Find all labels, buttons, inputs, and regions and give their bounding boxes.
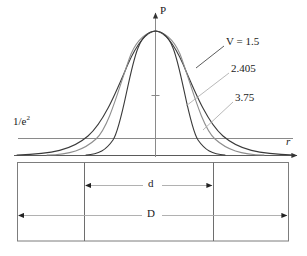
curve-label-v-1-5: V = 1.5	[226, 36, 259, 47]
figure-root: P r 1/e2 V = 1.5 2.405 3.75 d D	[0, 0, 307, 256]
cladding-outline-rect	[18, 163, 289, 242]
core-diameter-label: d	[148, 178, 154, 189]
one-over-e-squared-base: 1/e	[13, 115, 26, 127]
p-axis-label: P	[160, 5, 166, 16]
bottom-panel-fiber-rectangle	[18, 163, 289, 242]
curve-label-2-405: 2.405	[231, 63, 256, 74]
cladding-diameter-label: D	[147, 208, 155, 219]
curve-label-3-75: 3.75	[235, 92, 254, 103]
r-axis-label: r	[286, 136, 290, 147]
one-over-e-squared-exponent: 2	[26, 114, 30, 122]
one-over-e-squared-label: 1/e2	[13, 116, 30, 127]
leader-line-v-1-5	[196, 46, 224, 68]
